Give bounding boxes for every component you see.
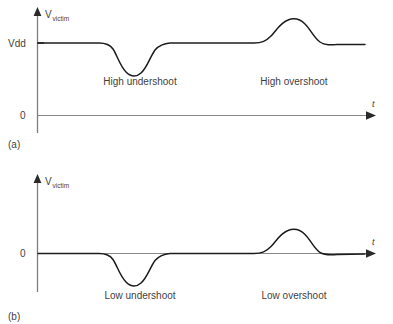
y-axis-subscript-a: victim xyxy=(53,15,70,22)
annotation-high-undershoot: High undershoot xyxy=(103,76,177,87)
x-axis-label-a: t xyxy=(372,99,375,109)
annotation-low-overshoot: Low overshoot xyxy=(261,290,326,301)
y-tick-label-zero-b: 0 xyxy=(20,248,26,259)
x-axis-arrowhead-b xyxy=(366,249,376,257)
chart-panel-b: V victim 0 t Low undershoot Low overshoo… xyxy=(0,162,393,324)
y-axis-arrowhead-b xyxy=(34,174,42,183)
y-axis-subscript-b: victim xyxy=(53,182,70,189)
y-axis-arrowhead-a xyxy=(34,7,42,16)
x-axis-label-b: t xyxy=(372,237,375,247)
y-axis-label-a: V xyxy=(45,9,52,20)
panel-label-a: (a) xyxy=(8,139,20,150)
figure-container: V victim Vdd 0 t High undershoot High ov… xyxy=(0,0,393,324)
waveform-curve-a xyxy=(38,19,365,76)
annotation-low-undershoot: Low undershoot xyxy=(104,290,175,301)
x-axis-arrowhead-a xyxy=(366,111,376,119)
annotation-high-overshoot: High overshoot xyxy=(260,76,327,87)
waveform-curve-b xyxy=(38,229,365,286)
panel-label-b: (b) xyxy=(8,311,20,322)
chart-panel-a: V victim Vdd 0 t High undershoot High ov… xyxy=(0,0,393,162)
y-axis-label-b: V xyxy=(45,176,52,187)
y-tick-label-zero-a: 0 xyxy=(20,110,26,121)
y-tick-label-vdd-a: Vdd xyxy=(8,38,26,49)
